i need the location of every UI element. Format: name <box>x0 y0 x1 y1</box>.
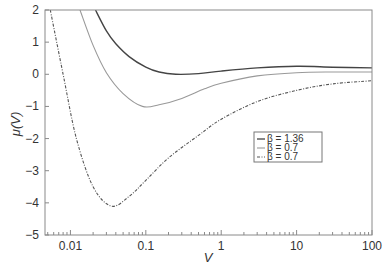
y-tick-label: 0 <box>32 67 39 81</box>
series-line-1 <box>80 10 372 107</box>
series-line-2 <box>50 10 372 206</box>
y-tick-label: −4 <box>25 196 39 210</box>
chart: 210−1−2−3−4−5 0.010.1110100 V μ(V) β = 1… <box>0 0 386 273</box>
legend: β = 1.36 β = 0.7 β = 0.7 <box>254 132 322 162</box>
x-tick-label: 0.01 <box>59 239 83 253</box>
y-tick-label: 1 <box>32 35 39 49</box>
plot-curves <box>50 10 372 206</box>
y-axis-title: μ(V) <box>8 112 23 137</box>
series-line-0 <box>96 10 373 74</box>
x-axis-title: V <box>204 250 214 265</box>
y-tick-label: −2 <box>25 132 39 146</box>
y-tick-label: −1 <box>25 99 39 113</box>
x-tick-label: 1 <box>218 239 225 253</box>
x-tick-label: 0.1 <box>137 239 154 253</box>
y-tick-label: −5 <box>25 228 39 242</box>
x-tick-label: 100 <box>362 239 382 253</box>
plot-frame <box>45 10 372 235</box>
x-tick-label: 10 <box>290 239 304 253</box>
y-tick-label: −3 <box>25 164 39 178</box>
legend-label-beta-0-7-dashed: β = 0.7 <box>267 151 298 162</box>
x-axis: 0.010.1110100 <box>48 230 383 253</box>
y-tick-label: 2 <box>32 3 39 17</box>
